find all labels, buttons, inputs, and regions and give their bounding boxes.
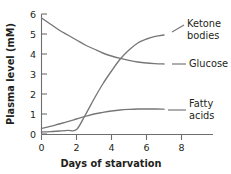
series-label-fatty-acids-line1: Fatty bbox=[189, 98, 213, 109]
y-tick-label-3: 3 bbox=[30, 69, 36, 80]
y-tick-label-1: 1 bbox=[30, 109, 36, 120]
series-label-ketone-bodies-line2: bodies bbox=[187, 30, 219, 41]
series-line-ketone-bodies bbox=[42, 35, 165, 132]
x-axis: 0 2 4 6 8 Days of starvation bbox=[38, 135, 213, 170]
y-tick-label-0: 0 bbox=[30, 129, 36, 140]
y-tick-label-6: 6 bbox=[30, 9, 36, 20]
series-line-glucose bbox=[42, 18, 165, 64]
x-axis-title: Days of starvation bbox=[60, 158, 161, 169]
x-tick-label-4: 4 bbox=[108, 142, 114, 153]
x-tick-label-6: 6 bbox=[143, 142, 149, 153]
plasma-level-line-chart: 6 5 4 3 2 1 0 Plasma level (mM) 0 2 4 6 … bbox=[0, 0, 231, 174]
series-line-fatty-acids bbox=[42, 109, 165, 128]
y-tick-label-5: 5 bbox=[30, 29, 36, 40]
y-axis: 6 5 4 3 2 1 0 Plasma level (mM) bbox=[5, 9, 47, 140]
series-label-glucose: Glucose bbox=[189, 58, 228, 69]
leader-line-ketone-bodies bbox=[172, 25, 184, 32]
y-tick-label-4: 4 bbox=[30, 49, 36, 60]
x-tick-label-2: 2 bbox=[73, 142, 79, 153]
y-tick-label-2: 2 bbox=[30, 89, 36, 100]
series-label-fatty-acids-line2: acids bbox=[189, 110, 214, 121]
x-tick-label-8: 8 bbox=[178, 142, 184, 153]
y-axis-title: Plasma level (mM) bbox=[5, 23, 16, 125]
series-label-ketone-bodies-line1: Ketone bbox=[187, 18, 221, 29]
x-tick-label-0: 0 bbox=[38, 142, 44, 153]
chart-figure: 6 5 4 3 2 1 0 Plasma level (mM) 0 2 4 6 … bbox=[0, 0, 231, 174]
